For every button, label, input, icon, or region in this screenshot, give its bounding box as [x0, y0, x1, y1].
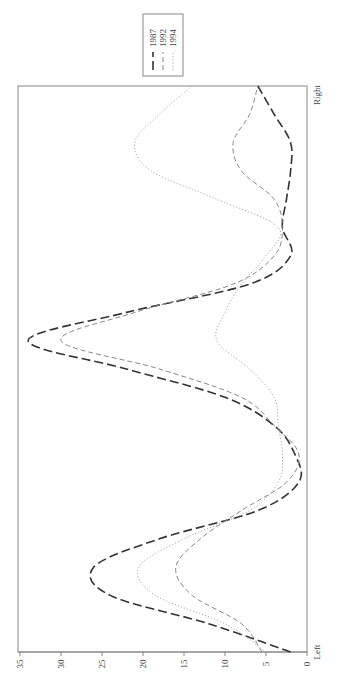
y-tick-label: 0 — [302, 661, 312, 666]
legend-label-1987: 1987 — [148, 29, 158, 48]
y-tick-label: 10 — [220, 659, 230, 669]
y-tick-label: 35 — [15, 659, 25, 669]
legend-label-1992: 1992 — [158, 29, 168, 47]
chart: 05101520253035 198719921994 Left Right — [0, 0, 338, 675]
y-tick-label: 20 — [138, 659, 148, 669]
background — [0, 0, 338, 675]
y-tick-label: 25 — [97, 659, 107, 669]
x-axis-start-label: Left — [312, 644, 322, 659]
legend-label-1994: 1994 — [168, 29, 178, 48]
legend: 198719921994 — [143, 14, 183, 76]
y-tick-label: 30 — [56, 659, 66, 669]
y-tick-label: 5 — [261, 661, 271, 666]
y-tick-label: 15 — [179, 659, 189, 669]
x-axis-end-label: Right — [312, 85, 322, 106]
